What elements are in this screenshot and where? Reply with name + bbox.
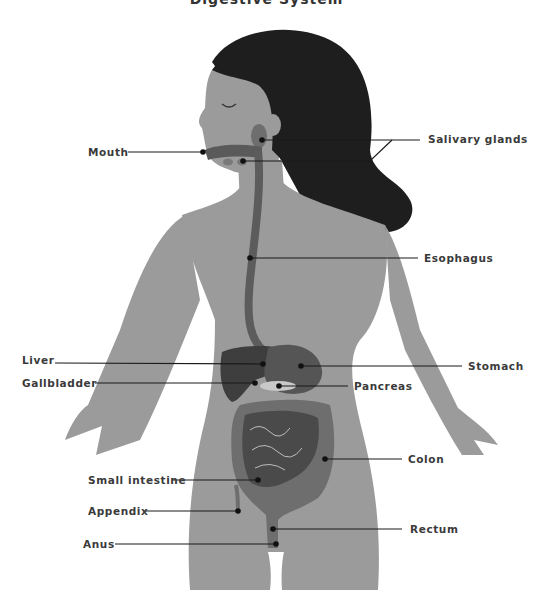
digestive-system-illustration: [0, 0, 533, 607]
appendix-shape: [236, 485, 238, 512]
label-stomach: Stomach: [468, 360, 524, 372]
left-arm: [65, 215, 200, 455]
label-rectum: Rectum: [410, 523, 458, 535]
label-pancreas: Pancreas: [354, 380, 413, 392]
label-small-intestine: Small intestine: [88, 474, 186, 486]
label-anus: Anus: [83, 538, 115, 550]
label-esophagus: Esophagus: [424, 252, 493, 264]
label-mouth: Mouth: [88, 146, 129, 158]
parotid-gland: [251, 124, 267, 148]
label-salivary-glands: Salivary glands: [428, 133, 528, 145]
label-liver: Liver: [22, 354, 54, 366]
label-appendix: Appendix: [88, 505, 148, 517]
label-gallbladder: Gallbladder: [22, 377, 97, 389]
ear: [265, 114, 281, 136]
label-colon: Colon: [408, 453, 444, 465]
